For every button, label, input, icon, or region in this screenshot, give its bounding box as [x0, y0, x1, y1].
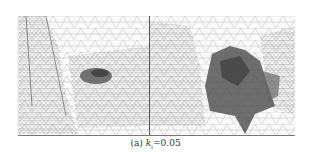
- mesh-panel-left: [18, 16, 149, 136]
- mesh-panel-right: [150, 16, 295, 136]
- caption-label: (a): [130, 138, 142, 148]
- figure: [18, 16, 295, 136]
- caption-value: 0.05: [161, 138, 181, 148]
- figure-caption: (a) ki=0.05: [0, 138, 311, 150]
- caption-equals: =: [153, 138, 161, 148]
- figure-baseline: [18, 135, 295, 136]
